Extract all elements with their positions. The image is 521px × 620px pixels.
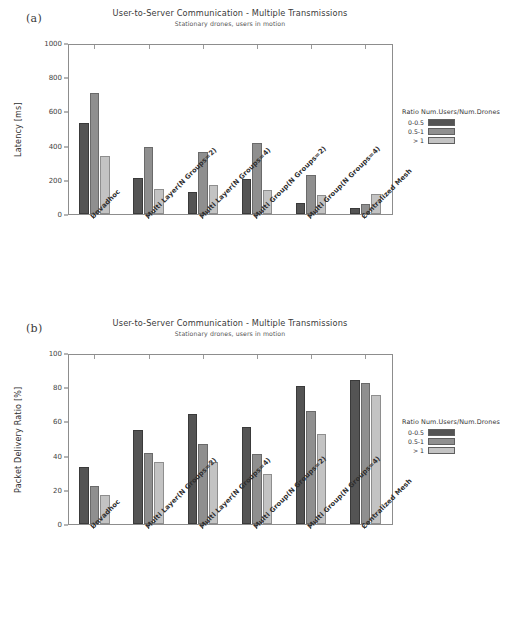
legend-item-label: 0-0.5 <box>402 429 424 436</box>
legend-item: > 1 <box>402 137 500 144</box>
bar-group <box>242 45 273 214</box>
bar-group <box>133 355 164 524</box>
bar <box>350 208 360 214</box>
bar-group <box>296 355 327 524</box>
x-axis-labels-a: UnvadhocMulti Layer(N Groups=2)Multi Lay… <box>0 215 521 310</box>
panel-a: (a) User-to-Server Communication - Multi… <box>0 0 521 310</box>
y-axis-a: 02004006008001000Latency [ms] <box>0 44 68 215</box>
y-tick-label: 200 <box>49 177 62 185</box>
legend-title: Ratio Num.Users/Num.Drones <box>402 418 500 426</box>
bar-group <box>188 45 219 214</box>
bar-group <box>242 355 273 524</box>
legend-item-label: > 1 <box>402 137 424 144</box>
bar <box>188 192 198 214</box>
bar-group <box>350 45 381 214</box>
bar-group <box>133 45 164 214</box>
bar <box>79 123 89 214</box>
bar <box>144 453 154 524</box>
y-axis-title: Packet Delivery Ratio [%] <box>14 386 23 492</box>
chart-subtitle: Stationary drones, users in motion <box>60 330 400 337</box>
bar-group <box>79 45 110 214</box>
legend-swatch <box>428 438 455 445</box>
panel-b: (b) User-to-Server Communication - Multi… <box>0 310 521 620</box>
y-tick-label: 40 <box>53 453 62 461</box>
bar <box>144 147 154 214</box>
bar <box>361 383 371 524</box>
bar <box>133 178 143 214</box>
chart-title: User-to-Server Communication - Multiple … <box>60 8 400 18</box>
legend-item-label: > 1 <box>402 447 424 454</box>
bar <box>133 430 143 524</box>
y-tick-label: 80 <box>53 384 62 392</box>
legend-b: Ratio Num.Users/Num.Drones 0-0.50.5-1> 1 <box>402 418 500 456</box>
bar-group <box>296 45 327 214</box>
panel-label-a: (a) <box>26 12 42 25</box>
bar <box>242 179 252 214</box>
y-axis-title: Latency [ms] <box>14 102 23 157</box>
chart-titles-b: User-to-Server Communication - Multiple … <box>60 318 400 337</box>
bar <box>79 467 89 524</box>
legend-item: > 1 <box>402 447 500 454</box>
legend-swatch <box>428 119 455 126</box>
legend-swatch <box>428 429 455 436</box>
legend-a: Ratio Num.Users/Num.Drones 0-0.50.5-1> 1 <box>402 108 500 146</box>
bar-group <box>350 355 381 524</box>
chart-subtitle: Stationary drones, users in motion <box>60 20 400 27</box>
bar-group <box>79 355 110 524</box>
bar <box>198 444 208 524</box>
legend-item: 0-0.5 <box>402 119 500 126</box>
legend-item: 0-0.5 <box>402 429 500 436</box>
legend-item: 0.5-1 <box>402 438 500 445</box>
bar <box>296 203 306 214</box>
legend-swatch <box>428 447 455 454</box>
y-tick-label: 100 <box>49 350 62 358</box>
bar <box>296 386 306 525</box>
legend-item-label: 0.5-1 <box>402 128 424 135</box>
y-tick-label: 400 <box>49 143 62 151</box>
legend-swatch <box>428 128 455 135</box>
bar <box>350 380 360 524</box>
panel-label-b: (b) <box>26 322 43 335</box>
legend-swatch <box>428 137 455 144</box>
x-axis-labels-b: UnvadhocMulti Layer(N Groups=2)Multi Lay… <box>0 525 521 620</box>
legend-item: 0.5-1 <box>402 128 500 135</box>
y-tick-label: 600 <box>49 108 62 116</box>
y-tick-label: 800 <box>49 74 62 82</box>
legend-item-label: 0-0.5 <box>402 119 424 126</box>
y-tick-label: 1000 <box>44 40 62 48</box>
y-tick-label: 60 <box>53 418 62 426</box>
chart-title: User-to-Server Communication - Multiple … <box>60 318 400 328</box>
y-axis-b: 020406080100Packet Delivery Ratio [%] <box>0 354 68 525</box>
chart-titles-a: User-to-Server Communication - Multiple … <box>60 8 400 27</box>
bar <box>90 93 100 214</box>
bar-group <box>188 355 219 524</box>
legend-item-label: 0.5-1 <box>402 438 424 445</box>
bar <box>188 414 198 524</box>
y-tick-label: 20 <box>53 487 62 495</box>
legend-title: Ratio Num.Users/Num.Drones <box>402 108 500 116</box>
